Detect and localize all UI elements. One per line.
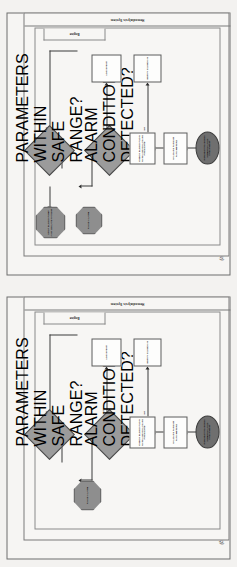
figure-b-node-start-label: REQUEST TO BEGIN HEMODIALYSIS TREATMENT (202, 416, 212, 447)
figure-b-node-task2-label: CHECK BLOOD FLOW RATE AND DIALYSATE PRES… (137, 417, 147, 447)
figure-b-lane: Engine (34, 311, 220, 529)
figure-a-lane: Engine (34, 27, 220, 245)
figure-b-outer-frame: (b) Hemodialysis System Engine (6, 296, 230, 559)
figure-a-node-decision1[interactable]: PARAMETERS WITHIN SAFE RANGE? (31, 132, 67, 168)
figure-b-node-task1[interactable]: VALIDATE PATIENT PARAMETERS (163, 416, 187, 448)
figure-b-arrow-decision2-to-octagon2 (78, 478, 81, 482)
figure-b-node-notify-clinician[interactable]: NOTIFY CLINICIAN (133, 338, 161, 366)
figure-a-node-task1[interactable]: VALIDATE PATIENT PARAMETERS (163, 132, 187, 164)
figure-b-edge-task1-to-notify (147, 368, 148, 416)
figure-a-rotated-canvas: (a) Hemodialysis System Engine (0, 0, 237, 283)
figure-a-node-raise-alarm-label: STOP BLOOD PUMP AND ISOLATE PATIENT (46, 207, 54, 237)
figure-a-node-decision2-label: ALARM CONDITION DETECTED? (82, 138, 136, 162)
figure-a-lane-label-text: Engine (69, 32, 79, 36)
figure-b-pool: Hemodialysis System Engine (23, 296, 229, 540)
figure-b-edge-decision1-to-lane (49, 334, 50, 416)
figure-b-node-log-event-label: LOG EVENT (104, 344, 109, 360)
figure-a-edge-decision1-to-octagon1 (49, 186, 50, 206)
figure-a-edge-decision1-to-lane (49, 50, 50, 132)
figure-a-arrow-decision2-to-octagon2 (78, 184, 81, 188)
figure-a-edge-task1-to-notify (147, 84, 148, 132)
figure-b-node-raise-alarm[interactable]: RAISE ALARM (73, 480, 101, 510)
figure-a-edge-decision1-loop (49, 50, 77, 51)
figure-a-node-decision1-label: PARAMETERS WITHIN SAFE RANGE? (13, 138, 85, 162)
figure-a-node-stop-pump[interactable]: RAISE ALARM (75, 206, 102, 234)
figure-b-node-decision1-label: PARAMETERS WITHIN SAFE RANGE? (13, 422, 85, 446)
figure-a-edge-label-t1: NO (142, 127, 144, 130)
figure-a-outer-frame: (a) Hemodialysis System Engine (6, 12, 230, 275)
figure-b-node-notify-clinician-label: NOTIFY CLINICIAN (145, 340, 150, 364)
figure-b-node-start[interactable]: REQUEST TO BEGIN HEMODIALYSIS TREATMENT (195, 415, 219, 448)
figure-b-edge-label-t1: NO (142, 411, 144, 414)
figure-a-node-task2[interactable]: CHECK BLOOD FLOW RATE AND DIALYSATE PRES… (129, 132, 155, 164)
figure-b-node-task1-label: VALIDATE PATIENT PARAMETERS (171, 417, 179, 447)
figure-a-node-notify-clinician[interactable]: NOTIFY CLINICIAN (133, 54, 161, 82)
figure-a-node-task1-label: VALIDATE PATIENT PARAMETERS (171, 133, 179, 163)
figure-b-edge-label-d1: NO (44, 411, 46, 414)
figure-b-node-decision2-textbox: ALARM CONDITION DETECTED? (91, 416, 127, 452)
figure-b-node-task2[interactable]: CHECK BLOOD FLOW RATE AND DIALYSATE PRES… (129, 416, 155, 448)
figure-a-edge-label-d2: YES (101, 125, 103, 130)
figure-a-node-decision2[interactable]: ALARM CONDITION DETECTED? (91, 132, 127, 168)
figure-b-lane-label-text: Engine (69, 316, 79, 320)
figure-b-lane-label: Engine (43, 312, 105, 324)
figure-b-node-decision1-textbox: PARAMETERS WITHIN SAFE RANGE? (31, 416, 67, 452)
figure-a-node-task2-label: CHECK BLOOD FLOW RATE AND DIALYSATE PRES… (137, 133, 147, 163)
figure-b-node-raise-alarm-label: RAISE ALARM (85, 485, 90, 504)
figure-b-rotated-canvas: (b) Hemodialysis System Engine (0, 284, 237, 567)
figure-a-lane-label: Engine (43, 28, 105, 40)
page-canvas: (a) Hemodialysis System Engine (0, 0, 237, 567)
figure-b-edge-decision2-to-octagon2-v (81, 479, 92, 480)
figure-b: (b) Hemodialysis System Engine (0, 284, 237, 567)
figure-a-node-raise-alarm[interactable]: STOP BLOOD PUMP AND ISOLATE PATIENT (35, 206, 65, 238)
figure-a: (a) Hemodialysis System Engine (0, 0, 237, 283)
figure-a-pool: Hemodialysis System Engine (23, 12, 229, 256)
figure-a-node-log-event[interactable]: LOG EVENT (91, 54, 121, 82)
figure-b-node-decision2-label: ALARM CONDITION DETECTED? (82, 422, 136, 446)
figure-a-node-start-label: REQUEST TO BEGIN HEMODIALYSIS TREATMENT (202, 132, 212, 163)
figure-b-node-log-event[interactable]: LOG EVENT (91, 338, 121, 366)
figure-a-node-log-event-label: LOG EVENT (104, 60, 109, 76)
figure-a-node-decision1-textbox: PARAMETERS WITHIN SAFE RANGE? (31, 132, 67, 168)
figure-b-pool-label: Hemodialysis System (24, 297, 230, 310)
figure-a-pool-label: Hemodialysis System (24, 13, 230, 26)
figure-a-node-start[interactable]: REQUEST TO BEGIN HEMODIALYSIS TREATMENT (195, 131, 219, 164)
figure-a-node-stop-pump-label: RAISE ALARM (86, 210, 91, 229)
figure-b-node-decision1[interactable]: PARAMETERS WITHIN SAFE RANGE? (31, 416, 67, 452)
figure-b-node-decision2[interactable]: ALARM CONDITION DETECTED? (91, 416, 127, 452)
figure-a-node-decision2-textbox: ALARM CONDITION DETECTED? (91, 132, 127, 168)
figure-a-edge-label-d1: NO (44, 127, 46, 130)
figure-b-pool-label-text: Hemodialysis System (110, 301, 144, 305)
figure-a-node-notify-clinician-label: NOTIFY CLINICIAN (145, 56, 150, 80)
figure-a-pool-label-text: Hemodialysis System (110, 17, 144, 21)
figure-a-edge-decision2-to-octagon2-v (81, 185, 92, 186)
figure-b-edge-label-d2: YES (101, 409, 103, 414)
figure-b-edge-decision1-loop (49, 334, 77, 335)
